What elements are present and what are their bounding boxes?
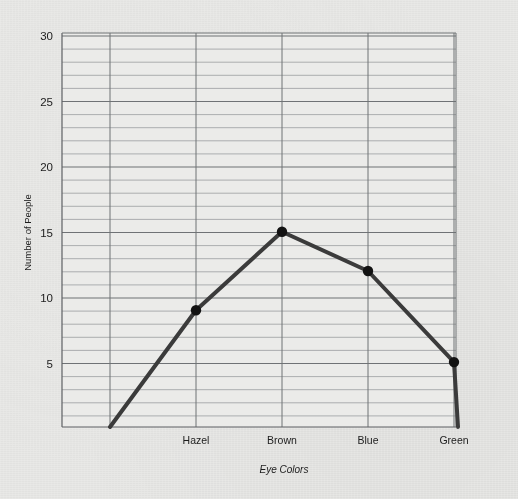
y-tick-label-5: 5 [47, 358, 53, 370]
line-chart-figure: 30 25 20 15 10 5 Number of People Hazel … [0, 0, 518, 499]
chart-canvas: 30 25 20 15 10 5 Number of People Hazel … [0, 0, 518, 499]
data-point-green [449, 357, 459, 367]
y-axis-title: Number of People [22, 194, 33, 271]
y-tick-label-25: 25 [40, 96, 53, 108]
data-point-brown [277, 227, 287, 237]
x-category-label-blue: Blue [357, 434, 378, 446]
y-tick-label-10: 10 [40, 292, 53, 304]
y-tick-label-20: 20 [40, 161, 53, 173]
data-point-blue [363, 266, 373, 276]
y-tick-label-15: 15 [40, 227, 53, 239]
data-point-hazel [191, 305, 201, 315]
x-axis-title: Eye Colors [260, 464, 309, 475]
x-category-label-green: Green [439, 434, 468, 446]
y-tick-label-30: 30 [40, 30, 53, 42]
plot-background [62, 33, 456, 427]
x-category-label-hazel: Hazel [183, 434, 210, 446]
x-category-label-brown: Brown [267, 434, 297, 446]
